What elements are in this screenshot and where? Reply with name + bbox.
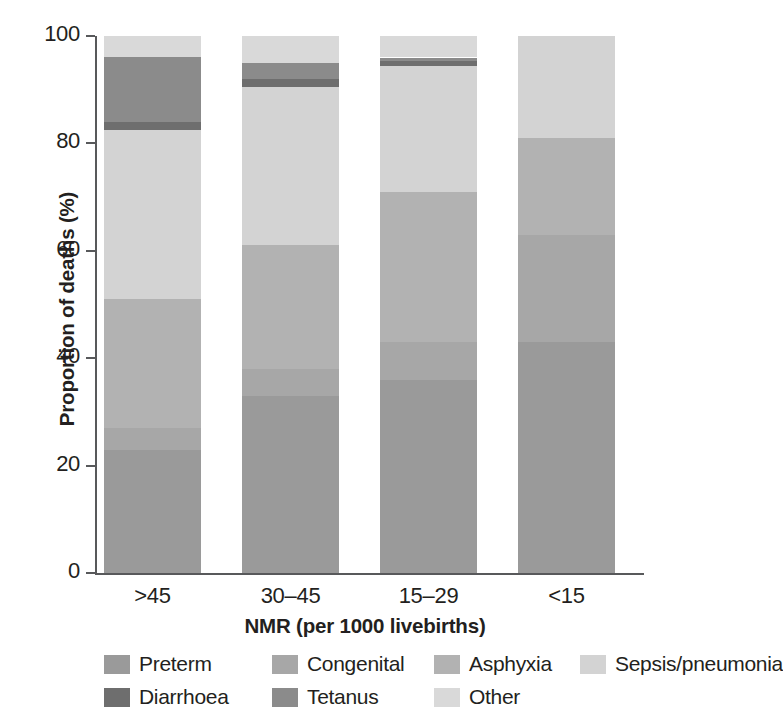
legend-item-diarrhoea[interactable]: Diarrhoea: [104, 683, 229, 711]
y-tick-mark: [86, 572, 95, 574]
bar-segment-preterm[interactable]: [242, 396, 339, 573]
bar-segment-congenital[interactable]: [380, 342, 477, 380]
legend-row: DiarrhoeaTetanusOther: [104, 683, 704, 713]
legend-item-congenital[interactable]: Congenital: [272, 650, 404, 678]
y-tick-label: 40: [24, 343, 80, 369]
y-tick-mark: [86, 465, 95, 467]
bar-segment-sepsis-pneumonia[interactable]: [242, 87, 339, 245]
x-tick-label: 30–45: [211, 583, 371, 609]
x-tick-label: 15–29: [349, 583, 509, 609]
legend-label: Preterm: [139, 652, 212, 676]
bar-segment-congenital[interactable]: [242, 369, 339, 396]
bar-15–29[interactable]: [380, 36, 477, 573]
legend-item-other[interactable]: Other: [434, 683, 520, 711]
bar-segment-diarrhoea[interactable]: [104, 122, 201, 130]
chart-legend: PretermCongenitalAsphyxiaSepsis/pneumoni…: [104, 650, 704, 712]
y-tick-label: 0: [24, 558, 80, 584]
legend-swatch-icon: [104, 655, 130, 674]
legend-label: Other: [469, 685, 520, 709]
bar-segment-tetanus[interactable]: [104, 57, 201, 121]
y-tick-label: 100: [24, 21, 80, 47]
bar-segment-asphyxia[interactable]: [380, 192, 477, 342]
x-axis-title: NMR (per 1000 livebirths): [0, 614, 730, 638]
bar-segment-preterm[interactable]: [104, 450, 201, 574]
bar-segment-other[interactable]: [104, 36, 201, 57]
legend-swatch-icon: [104, 688, 130, 707]
bar-segment-sepsis-pneumonia[interactable]: [104, 130, 201, 299]
legend-item-sepsis-pneumonia[interactable]: Sepsis/pneumonia: [580, 650, 783, 678]
y-tick-mark: [86, 250, 95, 252]
legend-label: Tetanus: [307, 685, 378, 709]
bar-segment-asphyxia[interactable]: [242, 245, 339, 369]
x-axis-line: [95, 573, 644, 575]
bar->45[interactable]: [104, 36, 201, 573]
y-tick-label: 20: [24, 451, 80, 477]
y-tick-label: 80: [24, 128, 80, 154]
y-tick-mark: [86, 357, 95, 359]
y-tick-mark: [86, 35, 95, 37]
bar-segment-congenital[interactable]: [518, 235, 615, 342]
bar-segment-preterm[interactable]: [518, 342, 615, 573]
legend-label: Sepsis/pneumonia: [615, 652, 783, 676]
x-tick-label: >45: [73, 583, 233, 609]
bar-segment-sepsis-pneumonia[interactable]: [518, 36, 615, 138]
legend-swatch-icon: [434, 655, 460, 674]
y-tick-mark: [86, 142, 95, 144]
legend-label: Diarrhoea: [139, 685, 229, 709]
legend-swatch-icon: [580, 655, 606, 674]
legend-row: PretermCongenitalAsphyxiaSepsis/pneumoni…: [104, 650, 704, 680]
legend-swatch-icon: [434, 688, 460, 707]
legend-swatch-icon: [272, 688, 298, 707]
legend-item-preterm[interactable]: Preterm: [104, 650, 212, 678]
bar-segment-other[interactable]: [380, 36, 477, 57]
bar-30–45[interactable]: [242, 36, 339, 573]
x-tick-label: <15: [487, 583, 647, 609]
bar-segment-sepsis-pneumonia[interactable]: [380, 66, 477, 192]
bar-<15[interactable]: [518, 36, 615, 573]
bar-segment-asphyxia[interactable]: [104, 299, 201, 428]
y-tick-label: 60: [24, 236, 80, 262]
bar-segment-tetanus[interactable]: [242, 63, 339, 79]
legend-item-asphyxia[interactable]: Asphyxia: [434, 650, 552, 678]
bar-segment-diarrhoea[interactable]: [380, 61, 477, 65]
legend-swatch-icon: [272, 655, 298, 674]
bar-segment-congenital[interactable]: [104, 428, 201, 449]
plot-area: [96, 36, 644, 573]
bar-segment-other[interactable]: [242, 36, 339, 63]
bar-segment-tetanus[interactable]: [380, 58, 477, 62]
legend-item-tetanus[interactable]: Tetanus: [272, 683, 378, 711]
bar-segment-asphyxia[interactable]: [518, 138, 615, 235]
bar-segment-diarrhoea[interactable]: [242, 79, 339, 87]
bar-segment-preterm[interactable]: [380, 380, 477, 573]
legend-label: Congenital: [307, 652, 404, 676]
legend-label: Asphyxia: [469, 652, 552, 676]
